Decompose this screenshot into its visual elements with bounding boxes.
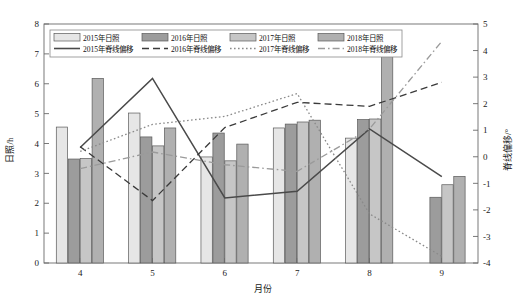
y-axis-tick-label: 4	[35, 139, 40, 149]
y2-axis-tick-label: 1	[483, 125, 488, 135]
bar	[213, 133, 224, 263]
bar	[346, 138, 357, 263]
legend-label-line: 2016年脊线偏移	[171, 44, 222, 54]
y2-axis-tick-label: -1	[483, 179, 491, 189]
y-axis-tick-label: 5	[35, 109, 40, 119]
bar	[442, 185, 453, 263]
bar	[430, 197, 441, 263]
legend-label-bar: 2016年日照	[171, 33, 208, 43]
plot-frame	[44, 24, 478, 263]
bar	[68, 159, 79, 263]
bar	[129, 113, 140, 263]
y-axis-tick-label: 2	[35, 198, 40, 208]
y2-axis-tick-label: 4	[483, 46, 488, 56]
y2-axis-title: 脊线偏移/°	[502, 129, 513, 172]
bar	[201, 157, 212, 263]
legend-label-bar: 2017年日照	[259, 33, 296, 43]
chart-figure: 012345678-4-3-2-1012345456789月份日照/h脊线偏移/…	[0, 0, 524, 307]
bar	[141, 137, 152, 263]
y2-axis-tick-label: 0	[483, 152, 488, 162]
legend-label-line: 2018年脊线偏移	[347, 44, 398, 54]
x-axis-tick-label: 9	[440, 268, 445, 278]
bar	[237, 144, 248, 263]
bar	[56, 127, 67, 263]
y-axis-tick-label: 1	[35, 228, 40, 238]
x-axis-tick-label: 7	[295, 268, 300, 278]
y2-axis-tick-label: 2	[483, 99, 488, 109]
x-axis-tick-label: 8	[367, 268, 372, 278]
y2-axis-tick-label: 3	[483, 72, 488, 82]
y-axis-title: 日照/h	[5, 137, 15, 163]
x-axis-tick-label: 5	[150, 268, 155, 278]
x-axis-title: 月份	[254, 283, 272, 294]
legend-swatch-bar	[54, 34, 80, 42]
y-axis-tick-label: 7	[35, 49, 40, 59]
y2-axis-tick-label: 5	[483, 19, 488, 29]
legend-swatch-bar	[230, 34, 256, 42]
bar	[358, 120, 369, 263]
bar	[309, 120, 320, 263]
legend-label-bar: 2015年日照	[83, 33, 120, 43]
bar	[285, 124, 296, 263]
x-axis-tick-label: 4	[78, 268, 83, 278]
legend-label-bar: 2018年日照	[347, 33, 384, 43]
y-axis-tick-label: 6	[35, 79, 40, 89]
bar	[92, 78, 103, 263]
bar	[381, 44, 392, 263]
legend-label-line: 2017年脊线偏移	[259, 44, 310, 54]
bar	[297, 122, 308, 263]
bar	[80, 158, 91, 263]
legend-label-line: 2015年脊线偏移	[83, 44, 134, 54]
y-axis-tick-label: 0	[35, 258, 40, 268]
y-axis-tick-label: 3	[35, 169, 40, 179]
y2-axis-tick-label: -3	[483, 232, 491, 242]
bar	[164, 128, 175, 263]
x-axis-tick-label: 6	[223, 268, 228, 278]
bar	[273, 128, 284, 263]
legend-swatch-bar	[142, 34, 168, 42]
legend-swatch-bar	[318, 34, 344, 42]
y2-axis-tick-label: -4	[483, 258, 491, 268]
bar	[225, 161, 236, 263]
bar	[370, 119, 381, 263]
y2-axis-tick-label: -2	[483, 205, 491, 215]
bar	[153, 146, 164, 263]
y-axis-tick-label: 8	[35, 19, 40, 29]
chart-canvas: 012345678-4-3-2-1012345456789月份日照/h脊线偏移/…	[0, 0, 524, 307]
bar	[454, 176, 465, 263]
